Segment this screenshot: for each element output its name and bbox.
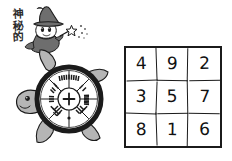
- wizard-right-eye-highlight: [48, 28, 49, 29]
- magic-square-cell-r2c1: 3: [125, 80, 157, 114]
- wizard-collar: [37, 36, 55, 39]
- caption-mysterious: 神 秘 的: [9, 9, 27, 44]
- wizard-figure: [25, 7, 88, 53]
- wizard-hat: [40, 7, 59, 26]
- wizard-right-arm: [55, 35, 63, 41]
- turtle-flipper-rear-right: [81, 120, 100, 141]
- caption-char-3: 的: [12, 32, 24, 44]
- magic-square-cell-r2c3: 7: [188, 80, 220, 113]
- shell-marks-southeast: [76, 106, 87, 114]
- magic-square-cell-r1c3: 2: [188, 48, 220, 81]
- magic-square-grid: 4 9 2 3 5 7 8 1 6: [124, 46, 222, 148]
- magic-square-cell-r2c2: 5: [157, 80, 189, 113]
- wizard-wand: [60, 31, 69, 36]
- wizard-hat-tip: [37, 8, 43, 10]
- wizard-left-eye: [41, 27, 44, 32]
- sparkle-dot: [84, 28, 86, 30]
- turtle-flipper-front-left: [39, 50, 55, 71]
- wizard-face: [36, 23, 57, 39]
- turtle-flipper-front-right: [87, 69, 108, 82]
- turtle-flipper-rear-left: [36, 120, 53, 142]
- shell-marks-west: [49, 97, 54, 102]
- shell-marks-northwest: [51, 83, 59, 93]
- turtle-shell-rim: [37, 67, 101, 131]
- sparkle-dot: [81, 32, 83, 34]
- shell-marks-southwest: [51, 106, 62, 116]
- wizard-left-eye-highlight: [41, 28, 42, 29]
- wizard-robe: [32, 32, 59, 53]
- magic-square-cell-r3c3: 6: [188, 113, 220, 146]
- sparkle-dot: [80, 25, 82, 27]
- turtle-head: [17, 90, 46, 113]
- magic-square-cell-r1c2: 9: [157, 48, 189, 81]
- turtle-figure: [17, 50, 108, 143]
- sparkle-dot: [83, 37, 84, 38]
- shell-marks-east: [84, 95, 89, 104]
- illustration-scene: 神 秘 的: [0, 0, 232, 161]
- wizard-right-eye: [48, 27, 51, 32]
- sparkle-dot: [86, 33, 88, 35]
- magic-square-cell-r3c1: 8: [125, 113, 157, 147]
- sparkle-cluster: [78, 25, 88, 39]
- shell-marks-northeast: [80, 85, 87, 91]
- wizard-hat-brim: [34, 22, 63, 27]
- shell-center-circle: [58, 88, 80, 110]
- shell-marks-south: [67, 116, 70, 119]
- shell-center-cross-icon: [64, 94, 75, 105]
- magic-square-cell-r1c1: 4: [125, 47, 157, 81]
- turtle-eye: [25, 96, 30, 101]
- sparkle-dot: [78, 36, 80, 38]
- turtle-shell-field: [41, 71, 98, 128]
- turtle-mouth: [20, 106, 30, 108]
- magic-square-cell-r3c2: 1: [157, 113, 189, 146]
- star-icon: [66, 25, 77, 36]
- wizard-mouth: [43, 35, 50, 36]
- turtle-eye-highlight: [26, 97, 27, 98]
- shell-marks-north: [59, 75, 79, 81]
- shell-segment-dividers: [41, 71, 97, 127]
